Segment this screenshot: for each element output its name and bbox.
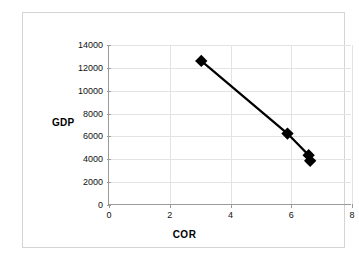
x-axis-tick: [231, 204, 232, 208]
x-axis-tick-label: 0: [106, 210, 111, 220]
series-line: [201, 61, 310, 161]
y-axis-tick-label: 6000: [83, 131, 103, 141]
x-axis-tick: [352, 204, 353, 208]
x-axis-tick-label: 2: [167, 210, 172, 220]
y-axis-tick-label: 4000: [83, 154, 103, 164]
plot-area: 02000400060008000100001200014000 02468: [108, 45, 351, 205]
x-axis-title: COR: [23, 229, 346, 240]
gridline-vertical: [352, 45, 353, 204]
y-axis-tick-label: 14000: [78, 40, 103, 50]
y-axis-tick-label: 0: [98, 200, 103, 210]
x-axis-tick-label: 8: [349, 210, 354, 220]
y-axis-title: GDP: [52, 117, 75, 128]
x-axis-tick: [291, 204, 292, 208]
y-axis-tick-label: 12000: [78, 63, 103, 73]
x-axis-tick: [170, 204, 171, 208]
x-axis-tick-label: 4: [228, 210, 233, 220]
chart-frame: GDP COR 02000400060008000100001200014000…: [22, 12, 345, 248]
y-axis-tick-label: 2000: [83, 177, 103, 187]
y-axis-tick-label: 8000: [83, 109, 103, 119]
x-axis-tick-label: 6: [289, 210, 294, 220]
x-axis-tick: [109, 204, 110, 208]
data-series: [109, 45, 351, 204]
y-axis-tick-label: 10000: [78, 86, 103, 96]
